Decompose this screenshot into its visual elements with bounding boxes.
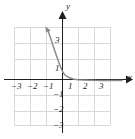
y-tick-label-pos3: 3 bbox=[55, 36, 60, 45]
x-tick-label-neg1: −1 bbox=[43, 82, 54, 91]
x-axis-label: x bbox=[128, 73, 132, 82]
axes bbox=[4, 12, 126, 133]
y-tick-label-pos1: 1 bbox=[55, 64, 60, 73]
x-tick-label-pos2: 2 bbox=[83, 82, 88, 91]
x-tick-label-pos1: 1 bbox=[68, 82, 73, 91]
y-axis-arrowhead bbox=[59, 11, 67, 19]
x-tick-label-neg3: −3 bbox=[11, 82, 22, 91]
y-axis-label: y bbox=[66, 2, 70, 11]
y-tick-label-neg3: −3 bbox=[53, 121, 64, 130]
x-tick-label-pos3: 3 bbox=[99, 82, 104, 91]
graph-figure: y x −3 −2 −1 1 2 3 3 1 −1 −2 −3 bbox=[0, 0, 135, 139]
graph-canvas bbox=[0, 0, 135, 139]
y-tick-label-neg1: −1 bbox=[53, 90, 64, 99]
x-tick-label-neg2: −2 bbox=[27, 82, 38, 91]
y-tick-label-neg2: −2 bbox=[53, 105, 64, 114]
